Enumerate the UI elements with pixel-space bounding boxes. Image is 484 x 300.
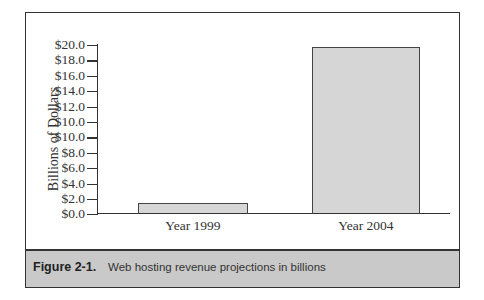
y-tick: $0.0 bbox=[26, 207, 98, 221]
y-tick: $18.0 bbox=[26, 53, 98, 67]
y-axis bbox=[97, 44, 98, 215]
figure-caption: Web hosting revenue projections in billi… bbox=[108, 261, 326, 273]
y-tick: $14.0 bbox=[26, 84, 98, 98]
y-tick: $6.0 bbox=[26, 161, 98, 175]
y-tick: $16.0 bbox=[26, 69, 98, 83]
figure-caption-band: Figure 2-1. Web hosting revenue projecti… bbox=[26, 249, 459, 287]
x-tick-label-2004: Year 2004 bbox=[306, 218, 426, 234]
y-tick: $4.0 bbox=[26, 177, 98, 191]
figure-label: Figure 2-1. bbox=[33, 260, 96, 274]
y-tick: $10.0 bbox=[26, 115, 98, 129]
x-axis bbox=[97, 213, 450, 214]
y-tick: $8.0 bbox=[26, 146, 98, 160]
x-tick-label-1999: Year 1999 bbox=[133, 218, 253, 234]
y-tick: $10.0 bbox=[26, 130, 98, 144]
figure-frame: Billions of Dollars $20.0 $18.0 $16.0 $1… bbox=[25, 12, 460, 288]
y-tick: $20.0 bbox=[26, 38, 98, 52]
bar-year-2004 bbox=[312, 47, 420, 214]
bar-chart: Billions of Dollars $20.0 $18.0 $16.0 $1… bbox=[26, 13, 459, 251]
y-tick: $12.0 bbox=[26, 100, 98, 114]
y-tick: $2.0 bbox=[26, 192, 98, 206]
